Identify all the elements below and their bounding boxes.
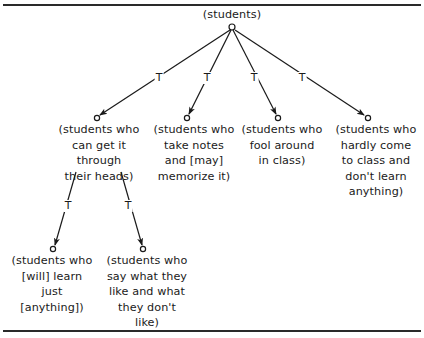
edge-label-root-n2: T (203, 72, 212, 84)
edge-label-root-n4: T (298, 72, 307, 84)
node-n4-label: (students who hardly come to class and d… (336, 122, 417, 200)
node-n1-label: (students who can get it through their h… (59, 122, 140, 184)
node-n1a-label: (students who [will] learn just [anythin… (12, 253, 93, 315)
node-circle-n1b (140, 246, 145, 251)
node-circle-root (229, 24, 235, 30)
node-n2-label: (students who take notes and [may] memor… (154, 122, 235, 184)
node-root-label: (students) (203, 7, 261, 23)
edge-label-n1-n1b: T (124, 200, 133, 212)
node-circle-n2 (184, 115, 189, 120)
node-n1b-label: (students who say what they like and wha… (107, 253, 188, 331)
node-circle-n4 (365, 115, 370, 120)
edge-label-root-n1: T (155, 72, 164, 84)
node-circle-n1a (50, 246, 55, 251)
node-circle-n3 (275, 115, 280, 120)
node-circle-n1 (94, 115, 99, 120)
edge-label-n1-n1a: T (64, 200, 73, 212)
node-n3-label: (students who fool around in class) (242, 122, 323, 169)
edge-label-root-n3: T (250, 72, 259, 84)
